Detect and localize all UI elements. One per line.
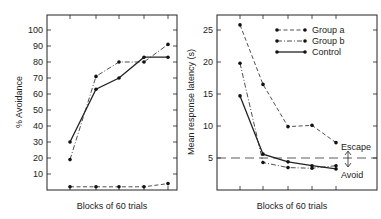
data-point: [94, 87, 98, 91]
legend-item-group-a: Group a: [275, 25, 344, 35]
y-tick-label: 20: [203, 57, 213, 67]
data-point: [238, 94, 242, 98]
data-point: [142, 60, 146, 64]
data-point: [166, 182, 170, 186]
data-point: [286, 160, 290, 164]
data-point: [117, 60, 121, 64]
legend-item-group-b: Group b: [275, 36, 344, 46]
series-control: [238, 94, 338, 171]
data-point: [68, 158, 72, 162]
data-point: [334, 164, 338, 168]
series-group-b: [68, 43, 170, 162]
data-point: [68, 185, 72, 189]
left-plot-frame: [47, 15, 177, 190]
y-tick-label: 100: [28, 25, 43, 35]
left-series: [68, 43, 170, 189]
data-point: [286, 125, 290, 129]
y-tick-label: 20: [33, 153, 43, 163]
y-tick-label: 70: [33, 73, 43, 83]
left-chart: 102030405060708090100 % Avoidance Blocks…: [14, 15, 177, 211]
data-point: [142, 185, 146, 189]
legend-label: Control: [312, 47, 341, 57]
series-group-a: [68, 182, 170, 189]
data-point: [334, 141, 338, 145]
y-tick-label: 10: [33, 169, 43, 179]
legend: Group aGroup bControl: [275, 25, 344, 57]
data-point: [166, 43, 170, 47]
y-tick-label: 60: [33, 89, 43, 99]
data-point: [286, 166, 290, 170]
legend-label: Group a: [312, 25, 345, 35]
y-tick-label: 50: [33, 105, 43, 115]
y-tick-label: 10: [203, 121, 213, 131]
y-tick-label: 90: [33, 41, 43, 51]
data-point: [334, 167, 338, 171]
left-x-axis: [70, 15, 168, 190]
left-y-axis-label: % Avoidance: [14, 76, 24, 128]
left-x-axis-label: Blocks of 60 trials: [77, 201, 148, 211]
data-point: [94, 185, 98, 189]
data-point: [117, 185, 121, 189]
y-tick-label: 40: [33, 121, 43, 131]
series-control: [68, 55, 170, 143]
data-point: [94, 75, 98, 79]
data-point: [238, 23, 242, 27]
data-point: [142, 55, 146, 59]
left-y-axis: 102030405060708090100: [28, 25, 177, 179]
y-tick-label: 30: [33, 137, 43, 147]
series-group-b: [238, 61, 338, 170]
data-point: [261, 152, 265, 156]
legend-label: Group b: [312, 36, 345, 46]
right-x-axis-label: Blocks of 60 trials: [257, 201, 328, 211]
double-arrow-icon: [345, 151, 351, 167]
data-point: [238, 61, 242, 65]
data-point: [117, 76, 121, 80]
data-point: [261, 83, 265, 87]
right-chart: 510152025 Mean response latency (s) Bloc…: [186, 15, 377, 211]
data-point: [310, 164, 314, 168]
data-point: [166, 55, 170, 59]
data-point: [310, 124, 314, 128]
legend-item-control: Control: [275, 47, 341, 57]
right-y-axis-label: Mean response latency (s): [186, 49, 196, 155]
figure: 102030405060708090100 % Avoidance Blocks…: [0, 0, 381, 219]
y-tick-label: 5: [208, 153, 213, 163]
data-point: [68, 140, 72, 144]
avoid-label: Avoid: [341, 170, 363, 180]
y-tick-label: 80: [33, 57, 43, 67]
y-tick-label: 25: [203, 25, 213, 35]
escape-label: Escape: [341, 142, 371, 152]
data-point: [261, 161, 265, 165]
y-tick-label: 15: [203, 89, 213, 99]
